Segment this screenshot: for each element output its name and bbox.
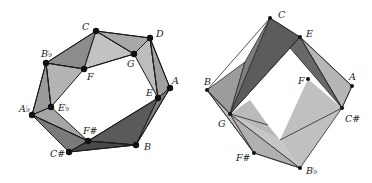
- vertex-left: [85, 138, 91, 144]
- vertex-right: [228, 112, 232, 116]
- face: [46, 63, 84, 107]
- vertex-left: [147, 35, 153, 41]
- vertex-label: F: [86, 71, 94, 82]
- vertex-right: [340, 106, 344, 110]
- vertex-left: [66, 149, 72, 155]
- vertex-label: C#: [50, 148, 65, 159]
- vertex-left: [93, 28, 99, 34]
- right-polyhedron: [207, 18, 352, 168]
- vertex-left: [43, 60, 49, 66]
- vertex-label: D: [155, 28, 164, 39]
- vertex-label: G: [218, 118, 226, 129]
- vertex-label: F#: [235, 152, 251, 163]
- vertex-label: A: [348, 71, 356, 82]
- vertex-left: [133, 142, 139, 148]
- vertex-label: F#: [82, 125, 98, 136]
- vertex-label: A♭: [18, 103, 30, 114]
- figure-canvas: CDGB♭FAEA♭E♭F#BC#CEBFAGC#F#B♭: [0, 0, 372, 183]
- vertex-label: G: [127, 58, 135, 69]
- vertex-right: [298, 166, 302, 170]
- vertex-label: B♭: [40, 48, 52, 59]
- vertex-label: C: [82, 21, 90, 32]
- vertex-label: B♭: [305, 165, 317, 176]
- vertex-right: [252, 151, 256, 155]
- vertex-label: C#: [345, 113, 360, 124]
- vertex-label: C: [278, 9, 286, 20]
- vertex-right: [268, 16, 272, 20]
- vertex-right: [306, 77, 310, 81]
- vertex-right: [350, 84, 354, 88]
- vertex-right: [298, 35, 302, 39]
- vertex-label: E: [145, 87, 153, 98]
- vertex-left: [155, 95, 161, 101]
- vertex-left: [131, 51, 137, 57]
- vertex-right: [205, 88, 209, 92]
- vertex-label: B: [203, 76, 211, 87]
- vertex-label: E♭: [57, 102, 69, 113]
- vertex-label: F: [297, 75, 305, 86]
- vertex-label: B: [143, 141, 151, 152]
- vertex-left: [48, 104, 54, 110]
- vertex-label: A: [171, 75, 179, 86]
- vertex-label: E: [305, 28, 313, 39]
